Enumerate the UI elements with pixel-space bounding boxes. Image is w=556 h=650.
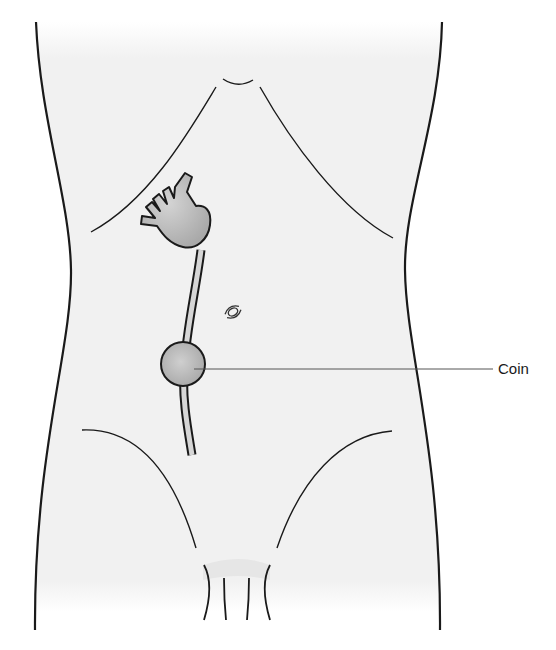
coin-label: Coin	[498, 360, 529, 377]
body-fill	[35, 22, 442, 630]
torso-diagram: Coin	[0, 0, 556, 650]
coin	[161, 342, 205, 386]
